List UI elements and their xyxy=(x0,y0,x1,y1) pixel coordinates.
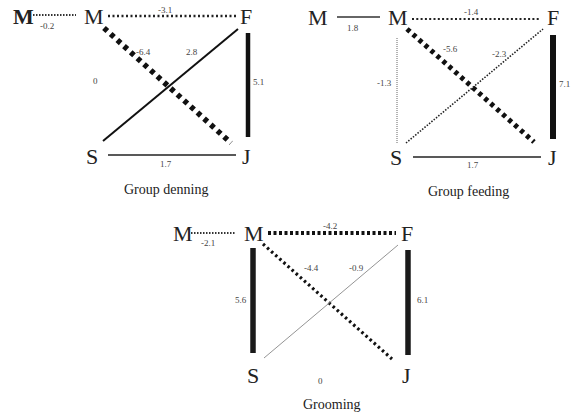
panel-group-denning: M M F S J -0.2 -3.1 -6.4 2.8 0 5.1 1.7 G… xyxy=(13,4,264,197)
node-s: S xyxy=(86,144,98,169)
value-s-f: -0.9 xyxy=(349,263,364,273)
value-s-f: -2.3 xyxy=(492,49,507,59)
node-f: F xyxy=(240,4,252,29)
value-m-s: 0 xyxy=(93,76,98,86)
value-s-j: 1.7 xyxy=(467,160,479,170)
value-m-s: 5.6 xyxy=(235,295,247,305)
value-m-f: -4.2 xyxy=(323,221,337,231)
value-s-f: 2.8 xyxy=(186,47,198,57)
panel-group-feeding: M M F S J 1.8 -1.4 -5.6 -2.3 -1.3 7.1 1.… xyxy=(308,5,570,199)
value-m-j: -6.4 xyxy=(136,47,151,57)
panel-title: Group feeding xyxy=(428,184,509,199)
value-m-j: -4.4 xyxy=(304,263,319,273)
node-j: J xyxy=(548,145,557,170)
node-m-outer: M xyxy=(173,221,193,246)
node-m: M xyxy=(244,221,264,246)
node-f: F xyxy=(401,221,413,246)
edge-m-j xyxy=(104,28,231,143)
value-f-j: 7.1 xyxy=(559,79,570,89)
value-m-f: -1.4 xyxy=(464,7,479,17)
value-s-j: 1.7 xyxy=(160,159,172,169)
value-s-j: 0 xyxy=(318,376,323,386)
node-s: S xyxy=(247,363,259,388)
value-m-outer-m: 1.8 xyxy=(347,23,359,33)
panel-title: Group denning xyxy=(124,182,208,197)
panel-title: Grooming xyxy=(303,397,361,412)
value-f-j: 6.1 xyxy=(417,295,428,305)
panel-grooming: M M F S J -2.1 -4.2 -4.4 -0.9 5.6 6.1 0 … xyxy=(173,221,428,412)
node-m-outer: M xyxy=(308,5,328,30)
value-m-outer-m: -0.2 xyxy=(40,21,54,31)
node-f: F xyxy=(547,5,559,30)
value-m-j: -5.6 xyxy=(443,44,458,54)
node-m: M xyxy=(84,4,104,29)
value-f-j: 5.1 xyxy=(253,77,264,87)
value-m-s: -1.3 xyxy=(377,78,392,88)
node-j: J xyxy=(242,144,251,169)
node-m-outer: M xyxy=(13,4,34,29)
node-m: M xyxy=(388,5,408,30)
node-j: J xyxy=(402,363,411,388)
node-s: S xyxy=(390,145,402,170)
edge-m-j xyxy=(407,29,534,142)
edge-m-j xyxy=(263,244,392,359)
value-m-f: -3.1 xyxy=(158,5,172,15)
value-m-outer-m: -2.1 xyxy=(201,238,215,248)
edge-s-f xyxy=(103,29,238,141)
